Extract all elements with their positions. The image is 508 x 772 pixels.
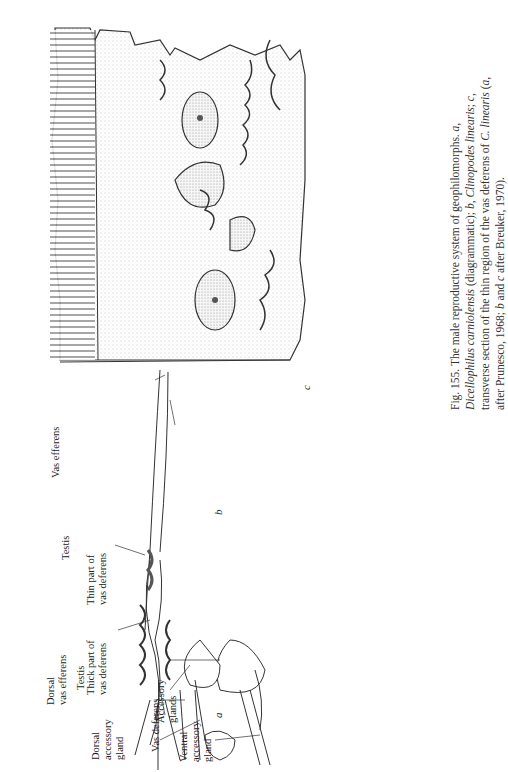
label-line: Thin part of [85,553,97,605]
caption-text: and [494,281,506,303]
label-line: vas deferens [97,640,109,695]
caption-italic: c [464,96,476,101]
figure-caption: Fig. 155. The male reproductive system o… [448,60,508,410]
label-line: glands [167,679,179,723]
panel-b-leaders [115,375,175,715]
label-line: Thick part of [85,640,97,695]
panel-letter-a: a [212,713,224,719]
label-accessory-glands: Accessory glands [155,679,179,723]
label-testis-b: Testis [60,536,72,560]
label-line: accessory [102,719,114,760]
caption-species-italic: C. linearis [479,92,491,141]
label-vas-efferens: Vas efferens [50,427,62,478]
caption-text: ( [479,86,491,93]
caption-italic: c [494,276,506,281]
panel-c-drawing [50,28,305,362]
label-line: Testis [60,536,72,560]
caption-italic: a [449,126,461,132]
label-thin-part-vas-deferens: Thin part of vas deferens [85,553,109,605]
label-ventral-accessory-gland: Ventral accessory gland [178,721,214,762]
caption-italic: a [479,80,491,86]
label-line: Dorsal [45,655,57,705]
caption-italic: b [464,203,476,209]
caption-text: after Breuker, 1970). [494,177,506,276]
panel-letter-b: b [212,510,224,516]
caption-text: , [464,198,476,204]
label-line: vas deferens [97,553,109,605]
caption-italic: b [494,303,506,309]
caption-text: ; [464,101,476,107]
caption-text: Fig. 155. The male reproductive system o… [449,131,461,410]
label-line: Vas efferens [50,427,62,478]
panel-letter-c: c [300,385,312,390]
caption-text: , [449,123,461,126]
caption-text: (diagrammatic); [464,209,476,289]
label-line: Dorsal [90,719,102,760]
label-line: Accessory [155,679,167,723]
caption-species-italic: Dicellophilus carniolensis [464,289,476,410]
label-line: gland [114,719,126,760]
label-thick-part-vas-deferens: Thick part of vas deferens [85,640,109,695]
label-line: vas efferens [57,655,69,705]
label-line: gland [202,721,214,762]
label-line: Ventral [178,721,190,762]
label-line: accessory [190,721,202,762]
label-dorsal-accessory-gland: Dorsal accessory gland [90,719,126,760]
caption-species-italic: Clinopodes linearis [464,107,476,197]
label-dorsal-vas-efferens: Dorsal vas efferens [45,655,69,705]
